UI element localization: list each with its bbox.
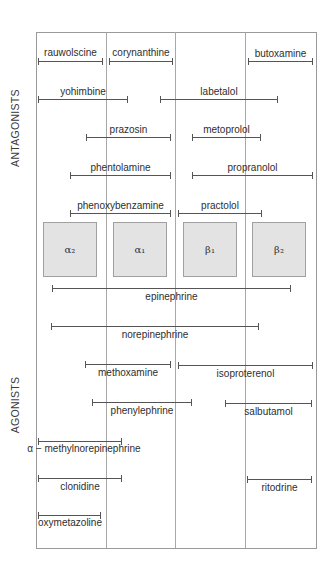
selectivity-range-bar [92,402,192,403]
adrenergic-receptor-diagram: ANTAGONISTS AGONISTS α₂α₁β₁β₂ rauwolscin… [0,0,333,580]
drug-label: practolol [201,201,239,211]
drug-label: rauwolscine [44,48,97,58]
column-divider [106,32,107,548]
selectivity-range-bar [85,364,171,365]
drug-label: yohimbine [60,87,106,97]
drug-label: norepinephrine [122,330,189,340]
drug-label: oxymetazoline [38,518,102,528]
drug-label: propranolol [227,163,277,173]
drug-label: phentolamine [90,163,150,173]
drug-label: isoproterenol [217,369,275,379]
receptor-box-beta2: β₂ [252,222,306,277]
selectivity-range-bar [86,137,171,138]
selectivity-range-bar [160,99,278,100]
drug-label: phenylephrine [111,406,174,416]
selectivity-range-bar [70,213,171,214]
selectivity-range-bar [51,326,259,327]
selectivity-range-bar [248,61,313,62]
selectivity-range-bar [225,403,312,404]
selectivity-range-bar [192,137,261,138]
column-divider [175,32,176,548]
selectivity-range-bar [247,479,312,480]
receptor-box-alpha1: α₁ [113,222,167,277]
receptor-label: α₂ [65,244,76,255]
agonists-section-label: AGONISTS [9,377,21,434]
drug-label: salbutamol [244,407,292,417]
selectivity-range-bar [38,441,122,442]
drug-label: methoxamine [98,368,158,378]
drug-label: metoprolol [203,125,250,135]
antagonists-section-label: ANTAGONISTS [9,89,21,167]
selectivity-range-bar [38,515,101,516]
drug-label: butoxamine [255,49,307,59]
drug-label: phenoxybenzamine [77,201,164,211]
drug-label: labetalol [200,87,237,97]
receptor-label: β₁ [205,244,215,255]
selectivity-range-bar [70,175,171,176]
selectivity-range-bar [52,288,291,289]
receptor-label: β₂ [274,244,284,255]
receptor-label: α₁ [135,244,146,255]
drug-label: clonidine [60,482,99,492]
selectivity-range-bar [38,61,103,62]
drug-label: corynanthine [112,48,169,58]
selectivity-range-bar [192,175,313,176]
drug-label: prazosin [110,125,148,135]
selectivity-range-bar [38,478,122,479]
receptor-box-alpha2: α₂ [43,222,97,277]
selectivity-range-bar [38,99,128,100]
receptor-box-beta1: β₁ [183,222,237,277]
selectivity-range-bar [178,213,262,214]
drug-label: ritodrine [261,483,297,493]
selectivity-range-bar [109,61,173,62]
column-divider [245,32,246,548]
drug-label: epinephrine [145,292,197,302]
drug-label: α − methylnorepinephrine [27,444,140,454]
selectivity-range-bar [178,365,313,366]
